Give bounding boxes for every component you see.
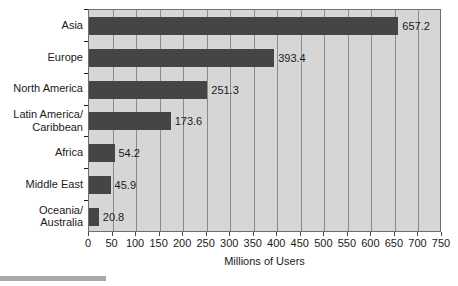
category-label: Asia: [62, 19, 83, 32]
x-tick-mark: [229, 232, 230, 236]
bar: [89, 112, 171, 130]
x-tick-label: 350: [244, 238, 262, 249]
x-tick-label: 200: [173, 238, 191, 249]
x-tick-label: 550: [338, 238, 356, 249]
bar-band: 45.9: [89, 169, 440, 201]
bar-band: 393.4: [89, 42, 440, 74]
bar-value-label: 393.4: [274, 52, 306, 63]
x-tick-label: 0: [85, 238, 91, 249]
y-tick-mark: [84, 9, 88, 10]
category-label: Africa: [55, 146, 83, 159]
y-tick-mark: [84, 168, 88, 169]
category-axis: AsiaEuropeNorth AmericaLatin America/ Ca…: [0, 9, 88, 232]
bar: [89, 208, 99, 226]
bar-value-label: 251.3: [207, 84, 239, 95]
x-tick-label: 700: [408, 238, 426, 249]
x-tick-label: 750: [432, 238, 450, 249]
bar-band: 251.3: [89, 74, 440, 106]
y-tick-mark: [84, 200, 88, 201]
bar: [89, 176, 111, 194]
bar-value-label: 173.6: [171, 116, 203, 127]
category-label: Europe: [48, 51, 83, 64]
y-tick-mark: [84, 73, 88, 74]
y-tick-mark: [84, 136, 88, 137]
bar: [89, 81, 207, 99]
x-tick-mark: [159, 232, 160, 236]
bar-band: 20.8: [89, 201, 440, 233]
x-tick-mark: [182, 232, 183, 236]
x-tick-mark: [394, 232, 395, 236]
category-label: North America: [13, 82, 83, 95]
bar-value-label: 54.2: [115, 148, 140, 159]
y-tick-mark: [84, 105, 88, 106]
bottom-rule: [0, 276, 106, 281]
x-tick-label: 100: [126, 238, 144, 249]
bar-band: 54.2: [89, 137, 440, 169]
x-tick-mark: [253, 232, 254, 236]
x-tick-mark: [88, 232, 89, 236]
bar-value-label: 45.9: [111, 180, 136, 191]
x-tick-label: 500: [314, 238, 332, 249]
x-tick-label: 150: [149, 238, 167, 249]
x-tick-mark: [417, 232, 418, 236]
category-label: Latin America/ Caribbean: [13, 108, 83, 133]
bar-value-label: 657.2: [398, 20, 430, 31]
bar-chart-figure: AsiaEuropeNorth AmericaLatin America/ Ca…: [0, 0, 458, 286]
category-label: Middle East: [26, 178, 83, 191]
x-tick-label: 50: [105, 238, 117, 249]
x-axis-title: Millions of Users: [88, 256, 441, 267]
x-tick-mark: [300, 232, 301, 236]
x-tick-mark: [276, 232, 277, 236]
bar: [89, 144, 115, 162]
x-tick-label: 250: [196, 238, 214, 249]
x-tick-label: 600: [361, 238, 379, 249]
x-tick-label: 650: [385, 238, 403, 249]
category-label: Oceania/ Australia: [39, 204, 83, 229]
x-tick-mark: [323, 232, 324, 236]
x-tick-mark: [441, 232, 442, 236]
plot-area: 657.2393.4251.3173.654.245.920.8: [88, 9, 441, 232]
x-tick-label: 450: [291, 238, 309, 249]
x-tick-mark: [135, 232, 136, 236]
x-tick-mark: [347, 232, 348, 236]
bar-value-label: 20.8: [99, 212, 124, 223]
y-tick-mark: [84, 41, 88, 42]
x-tick-label: 400: [267, 238, 285, 249]
bar-band: 657.2: [89, 10, 440, 42]
bar-band: 173.6: [89, 106, 440, 138]
x-tick-mark: [206, 232, 207, 236]
x-tick-mark: [112, 232, 113, 236]
x-tick-mark: [370, 232, 371, 236]
bar: [89, 49, 274, 67]
x-tick-label: 300: [220, 238, 238, 249]
bar: [89, 17, 398, 35]
